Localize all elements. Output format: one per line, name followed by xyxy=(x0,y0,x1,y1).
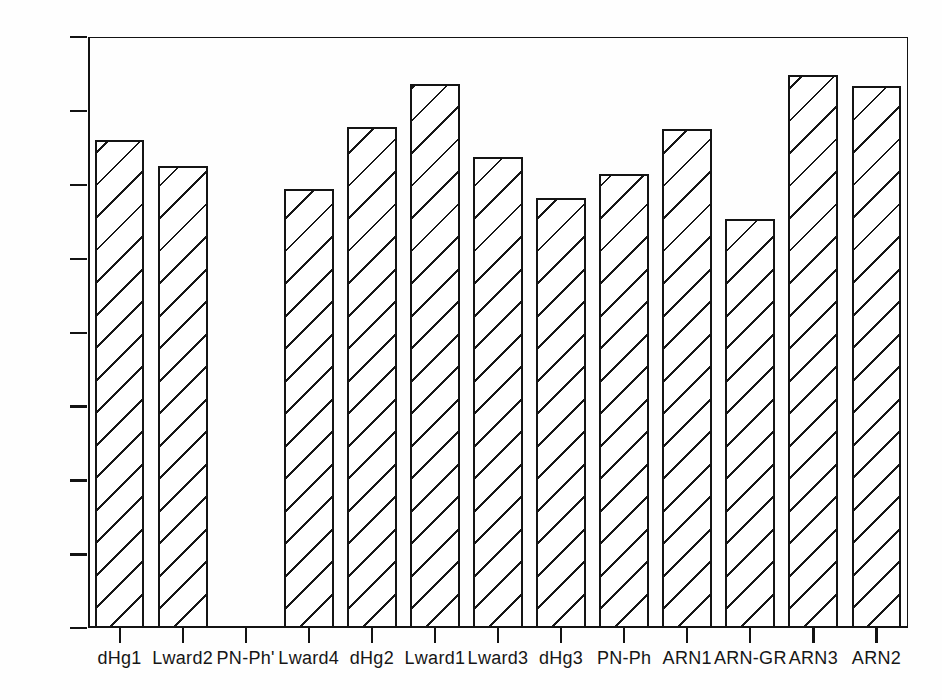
x-tick-label-pn-ph: PN-Ph xyxy=(597,648,652,669)
x-tick-mark xyxy=(560,628,562,643)
y-tick-mark xyxy=(70,110,87,112)
bar-dhg1 xyxy=(95,140,145,628)
x-tick-mark xyxy=(686,628,688,643)
x-tick-label-lward2: Lward2 xyxy=(152,648,213,669)
x-tick-label-pn-ph: PN-Ph' xyxy=(217,648,275,669)
bar-arn1 xyxy=(662,129,712,628)
x-tick-label-lward1: Lward1 xyxy=(405,648,466,669)
bar-arn3 xyxy=(788,75,838,628)
x-tick-mark xyxy=(497,628,499,643)
y-tick-mark xyxy=(70,627,87,629)
x-tick-label-arn1: ARN1 xyxy=(663,648,712,669)
x-tick-label-lward3: Lward3 xyxy=(468,648,529,669)
bar-lward3 xyxy=(473,157,523,628)
bar-pn-ph xyxy=(599,174,649,628)
x-tick-mark xyxy=(182,628,184,643)
bar-dhg2 xyxy=(347,127,397,628)
y-tick-mark xyxy=(70,36,87,38)
bar-lward4 xyxy=(284,189,334,628)
x-tick-mark xyxy=(875,628,877,643)
y-tick-mark xyxy=(70,258,87,260)
x-tick-label-dhg2: dHg2 xyxy=(350,648,394,669)
x-tick-label-arn3: ARN3 xyxy=(789,648,838,669)
bar-lward1 xyxy=(410,84,460,628)
y-tick-mark xyxy=(70,479,87,481)
y-tick-mark xyxy=(70,184,87,186)
bar-lward2 xyxy=(158,166,208,628)
x-tick-label-dhg3: dHg3 xyxy=(539,648,583,669)
x-tick-mark xyxy=(812,628,814,643)
x-tick-mark xyxy=(623,628,625,643)
x-tick-label-lward4: Lward4 xyxy=(278,648,339,669)
x-tick-mark xyxy=(119,628,121,643)
x-tick-mark xyxy=(308,628,310,643)
x-tick-label-arn-gr: ARN-GR xyxy=(714,648,787,669)
x-tick-label-dhg1: dHg1 xyxy=(97,648,141,669)
bar-dhg3 xyxy=(536,198,586,628)
x-tick-mark xyxy=(749,628,751,643)
x-tick-mark xyxy=(245,628,247,643)
y-tick-mark xyxy=(70,405,87,407)
x-tick-mark xyxy=(371,628,373,643)
bar-arn2 xyxy=(852,86,902,628)
x-tick-label-arn2: ARN2 xyxy=(852,648,901,669)
y-tick-mark xyxy=(70,332,87,334)
bar-arn-gr xyxy=(725,219,775,628)
y-tick-mark xyxy=(70,553,87,555)
bar-chart: 050100150200250300350400 dHg1Lward2PN-Ph… xyxy=(0,0,942,700)
x-tick-mark xyxy=(434,628,436,643)
